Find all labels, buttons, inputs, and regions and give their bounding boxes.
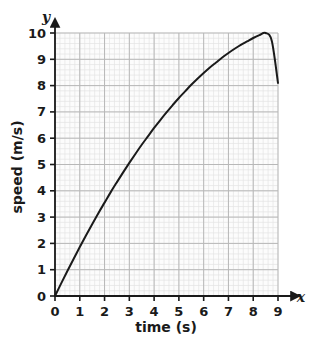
y-tick-label: 3 xyxy=(37,210,46,225)
chart-canvas: 0123456789 012345678910 time (s) speed (… xyxy=(0,0,313,347)
x-tick-label: 2 xyxy=(100,304,109,319)
x-tick-label: 8 xyxy=(249,304,258,319)
y-tick-label: 6 xyxy=(37,131,46,146)
x-tick-label: 0 xyxy=(50,304,59,319)
y-tick-label: 7 xyxy=(37,104,46,119)
y-tick-label: 8 xyxy=(37,78,46,93)
x-tick-label: 4 xyxy=(150,304,159,319)
y-axis-letter-label: y xyxy=(41,9,51,25)
x-tick-label: 7 xyxy=(224,304,233,319)
x-tick-label: 9 xyxy=(273,304,282,319)
y-tick-label: 9 xyxy=(37,52,46,67)
x-axis-title: time (s) xyxy=(135,319,197,335)
x-tick-label: 5 xyxy=(174,304,183,319)
y-tick-label: 0 xyxy=(37,289,46,304)
y-tick-label: 5 xyxy=(37,157,46,172)
x-tick-label: 3 xyxy=(125,304,134,319)
y-tick-label: 4 xyxy=(37,183,46,198)
x-tick-label: 6 xyxy=(199,304,208,319)
y-tick-label: 2 xyxy=(37,236,46,251)
y-tick-label: 1 xyxy=(37,262,46,277)
y-axis-title: speed (m/s) xyxy=(9,120,25,213)
y-tick-label: 10 xyxy=(28,26,46,41)
speed-time-chart: 0123456789 012345678910 time (s) speed (… xyxy=(0,0,313,347)
x-tick-label: 1 xyxy=(75,304,84,319)
x-axis-letter-label: x xyxy=(296,289,306,305)
